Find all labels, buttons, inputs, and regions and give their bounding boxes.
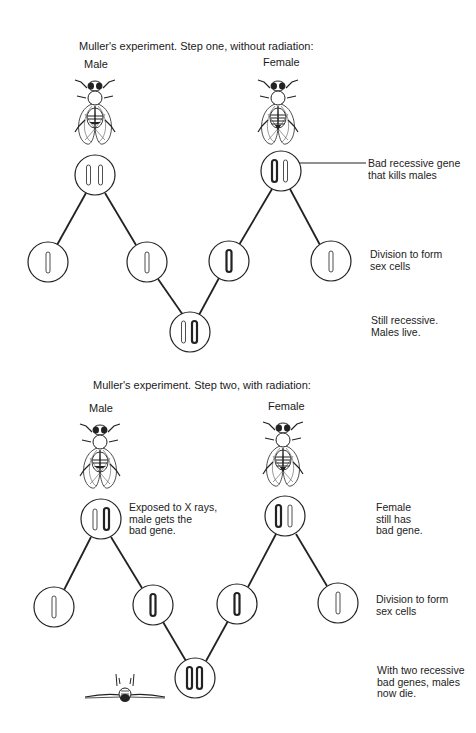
step-one-male-gamete-1-cell xyxy=(28,242,68,282)
step-one-male-parent-cell xyxy=(75,155,115,195)
step-two-offspring-cell xyxy=(175,658,215,698)
step-one-female-gamete-2-cell xyxy=(311,241,351,281)
female-fly-icon-step-two xyxy=(263,422,303,486)
step-two-female-gamete-1-cell xyxy=(217,584,257,624)
step-two-female-gamete-2-cell xyxy=(318,583,358,623)
step-one-female-gamete-1-cell xyxy=(209,241,249,281)
dead-fly-icon xyxy=(85,674,165,702)
step-two-male-gamete-1-cell xyxy=(34,587,74,627)
step-two-lineage-lines xyxy=(64,534,327,661)
female-fly-icon xyxy=(258,80,298,144)
step-one-offspring-cell xyxy=(170,312,210,352)
step-two-male-gamete-2-cell xyxy=(133,585,173,625)
diagram-canvas xyxy=(0,0,476,733)
step-two-female-parent-cell xyxy=(265,496,305,536)
step-one-male-gamete-2-cell xyxy=(127,242,167,282)
step-two-male-parent-cell xyxy=(81,499,121,539)
male-fly-icon xyxy=(75,80,115,144)
male-fly-icon-step-two xyxy=(80,424,120,488)
step-one-lineage-lines xyxy=(57,189,320,315)
step-one-female-parent-cell xyxy=(261,151,301,191)
